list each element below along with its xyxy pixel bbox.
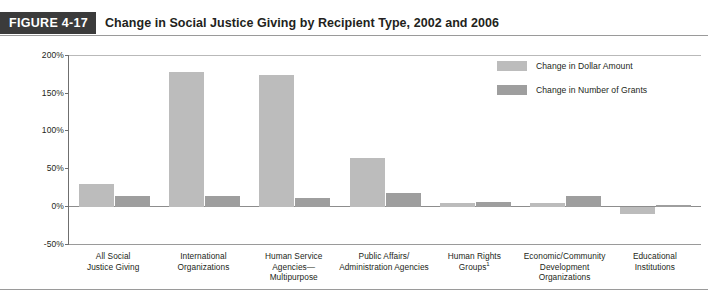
bar-number-of-grants <box>295 198 330 207</box>
figure-title: Change in Social Justice Giving by Recip… <box>96 12 499 34</box>
bar-group <box>79 55 150 245</box>
bar-dollar-amount <box>259 75 294 207</box>
chart-legend: Change in Dollar Amount Change in Number… <box>497 58 697 106</box>
bar-dollar-amount <box>530 203 565 207</box>
bar-group <box>259 55 330 245</box>
bar-group <box>350 55 421 245</box>
header-divider <box>0 35 708 36</box>
bar-dollar-amount <box>79 184 114 207</box>
y-tick-label-50: 50% <box>47 163 64 173</box>
bar-dollar-amount <box>350 158 385 207</box>
legend-swatch-dollar-amount <box>497 61 527 71</box>
bar-number-of-grants <box>115 196 150 207</box>
legend-item-number-of-grants: Change in Number of Grants <box>497 82 697 98</box>
y-tick-label-150: 150% <box>42 88 64 98</box>
bar-dollar-amount <box>440 203 475 207</box>
bar-number-of-grants <box>566 196 601 207</box>
legend-item-dollar-amount: Change in Dollar Amount <box>497 58 697 74</box>
figure-header: FIGURE 4-17 Change in Social Justice Giv… <box>0 12 708 34</box>
legend-label-dollar-amount: Change in Dollar Amount <box>536 61 633 71</box>
y-tick-label-neg50: -50% <box>44 239 64 249</box>
x-axis-label: All SocialJustice Giving <box>68 251 158 272</box>
x-axis-label: Human ServiceAgencies—Multipurpose <box>249 251 339 283</box>
bar-dollar-amount <box>169 72 204 207</box>
y-tick-label-200: 200% <box>42 50 64 60</box>
bar-number-of-grants <box>656 205 691 207</box>
y-tick-label-0: 0% <box>52 201 65 211</box>
figure-number-tag: FIGURE 4-17 <box>0 12 96 34</box>
footer-divider <box>0 289 708 290</box>
x-axis-label: Economic/CommunityDevelopmentOrganizatio… <box>519 251 609 283</box>
x-axis-label: Human RightsGroups1 <box>429 251 519 272</box>
bar-number-of-grants <box>205 196 240 207</box>
bar-dollar-amount <box>620 207 655 214</box>
bar-group <box>169 55 240 245</box>
x-axis-label: Public Affairs/Administration Agencies <box>339 251 429 272</box>
x-axis-label: InternationalOrganizations <box>158 251 248 272</box>
y-tick-label-100: 100% <box>42 125 64 135</box>
legend-swatch-number-of-grants <box>497 85 527 95</box>
bar-number-of-grants <box>476 202 511 207</box>
legend-label-number-of-grants: Change in Number of Grants <box>536 85 647 95</box>
bar-number-of-grants <box>386 193 421 207</box>
x-axis-label: EducationalInstitutions <box>610 251 700 272</box>
footnote-marker: 1 <box>486 261 489 267</box>
